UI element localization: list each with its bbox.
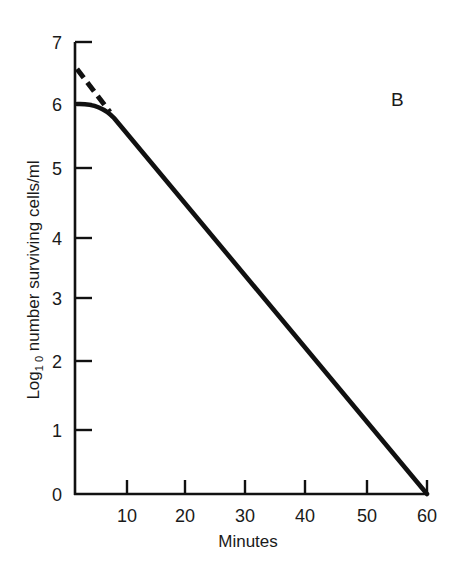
y-tick-label: 3 bbox=[52, 289, 62, 309]
svg-text:Log1 0 number surviving cells/: Log1 0 number surviving cells/ml bbox=[24, 160, 45, 399]
x-tick-label: 20 bbox=[175, 506, 195, 526]
y-tick-label: 0 bbox=[52, 485, 62, 505]
survival-curve-chart: B Log1 0 number surviving cells/ml 01234… bbox=[0, 0, 472, 566]
x-tick-label: 40 bbox=[295, 506, 315, 526]
x-tick-label: 30 bbox=[235, 506, 255, 526]
y-tick-label: 2 bbox=[52, 352, 62, 372]
y-tick-label: 7 bbox=[52, 33, 62, 53]
x-tick-label: 60 bbox=[417, 506, 437, 526]
y-axis-ticks bbox=[75, 42, 92, 430]
x-axis-tick-labels: 102030405060 bbox=[117, 506, 437, 526]
y-tick-label: 6 bbox=[52, 95, 62, 115]
x-axis-title: Minutes bbox=[218, 532, 278, 551]
survival-solid-curve bbox=[77, 104, 427, 494]
x-axis-ticks bbox=[127, 480, 427, 494]
y-tick-label: 4 bbox=[52, 229, 62, 249]
y-axis-tick-labels: 01234567 bbox=[52, 33, 62, 505]
y-axis-title: Log1 0 number surviving cells/ml bbox=[24, 160, 45, 399]
x-tick-label: 50 bbox=[357, 506, 377, 526]
axes bbox=[74, 42, 428, 495]
y-tick-label: 1 bbox=[52, 421, 62, 441]
y-tick-label: 5 bbox=[52, 159, 62, 179]
x-tick-label: 10 bbox=[117, 506, 137, 526]
panel-label: B bbox=[391, 89, 404, 110]
